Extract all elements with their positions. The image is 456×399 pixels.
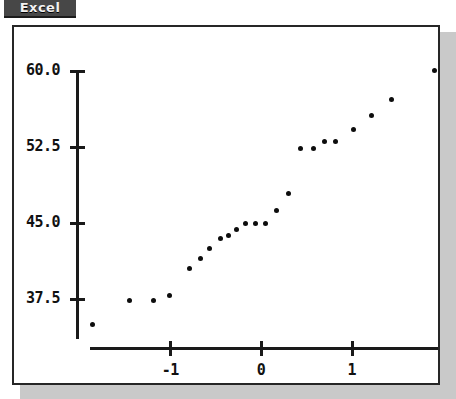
- x-axis-tick: [351, 341, 354, 356]
- scatter-point: [432, 68, 437, 73]
- x-axis-line: [90, 347, 439, 350]
- scatter-point: [333, 139, 338, 144]
- scatter-point: [234, 227, 239, 232]
- scatter-point: [151, 298, 156, 303]
- x-axis-tick-label: 1: [326, 363, 378, 378]
- scatter-point: [127, 298, 132, 303]
- scatter-point: [389, 97, 394, 102]
- scatter-point: [243, 221, 248, 226]
- scatter-point: [207, 246, 212, 251]
- scatter-point: [90, 322, 95, 327]
- y-axis-tick-label: 37.5: [14, 291, 60, 306]
- scatter-point: [274, 208, 279, 213]
- scatter-point: [198, 256, 203, 261]
- x-axis-tick: [169, 341, 172, 356]
- scatter-point: [286, 191, 291, 196]
- scatter-point: [253, 221, 258, 226]
- y-axis-tick-label: 52.5: [14, 139, 60, 154]
- x-axis-tick-label: -1: [144, 363, 196, 378]
- screenshot-root: Excel 37.545.052.560.0-101: [0, 0, 456, 399]
- scatter-point: [298, 146, 303, 151]
- scatter-point: [226, 233, 231, 238]
- scatter-point: [167, 293, 172, 298]
- scatter-point: [218, 236, 223, 241]
- x-axis-tick: [260, 341, 263, 356]
- scatter-point: [322, 139, 327, 144]
- scatter-point: [263, 221, 268, 226]
- excel-app-badge: Excel: [4, 0, 76, 18]
- y-axis-tick: [70, 298, 85, 301]
- scatter-plot-area: 37.545.052.560.0-101: [14, 27, 438, 383]
- y-axis-tick: [70, 70, 85, 73]
- y-axis-tick-label: 60.0: [14, 63, 60, 78]
- excel-app-label: Excel: [20, 1, 61, 15]
- scatter-point: [369, 113, 374, 118]
- y-axis-tick: [70, 146, 85, 149]
- y-axis-tick-label: 45.0: [14, 215, 60, 230]
- scatter-point: [351, 127, 356, 132]
- y-axis-tick: [70, 222, 85, 225]
- x-axis-tick-label: 0: [235, 363, 287, 378]
- scatter-point: [311, 146, 316, 151]
- scatter-point: [187, 266, 192, 271]
- chart-panel: 37.545.052.560.0-101: [12, 25, 440, 385]
